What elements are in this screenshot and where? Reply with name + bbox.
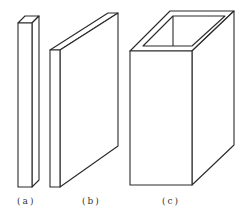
shape-a-bar bbox=[18, 16, 39, 187]
shape-c-tube bbox=[130, 11, 234, 185]
shape-b-plate bbox=[50, 13, 118, 187]
label-a: (a) bbox=[17, 196, 35, 206]
label-b: (b) bbox=[82, 196, 101, 206]
figure-canvas bbox=[0, 0, 239, 218]
label-c: (c) bbox=[162, 196, 180, 206]
